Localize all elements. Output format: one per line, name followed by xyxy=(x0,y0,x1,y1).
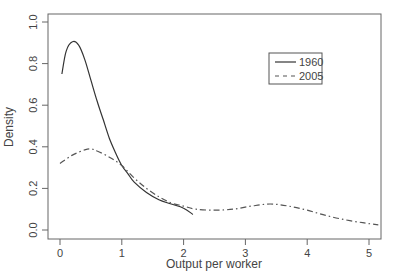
plot-frame xyxy=(48,14,381,239)
y-tick-label: 1.0 xyxy=(27,14,39,29)
series-2005-line xyxy=(60,149,378,225)
y-tick-label: 0.8 xyxy=(27,56,39,71)
density-chart: 0.00.20.40.60.81.0 012345 Output per wor… xyxy=(0,0,394,280)
y-tick-label: 0.2 xyxy=(27,181,39,196)
x-axis: 012345 xyxy=(57,239,372,259)
series-1960-line xyxy=(62,41,193,214)
y-axis-label: Density xyxy=(2,107,16,147)
y-axis: 0.00.20.40.60.81.0 xyxy=(27,14,48,237)
x-tick-label: 4 xyxy=(304,247,310,259)
x-tick-label: 5 xyxy=(366,247,372,259)
plot-series xyxy=(60,41,378,224)
legend: 1960 2005 xyxy=(269,53,323,84)
x-axis-label: Output per worker xyxy=(166,257,262,271)
x-tick-label: 0 xyxy=(57,247,63,259)
legend-label-1960: 1960 xyxy=(299,56,323,68)
y-tick-label: 0.4 xyxy=(27,139,39,154)
y-tick-label: 0.0 xyxy=(27,222,39,237)
legend-label-2005: 2005 xyxy=(299,70,323,82)
x-tick-label: 1 xyxy=(119,247,125,259)
chart-canvas: 0.00.20.40.60.81.0 012345 Output per wor… xyxy=(0,0,394,280)
y-tick-label: 0.6 xyxy=(27,98,39,113)
